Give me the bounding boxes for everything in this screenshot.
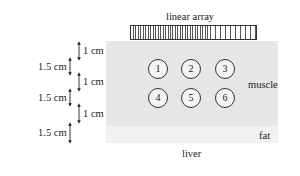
dimension-label-5: 1 cm [83, 109, 104, 120]
dimension-label-6: 1.5 cm [38, 128, 67, 139]
dimension-label-1: 1 cm [83, 46, 104, 57]
dimension-label-4: 1.5 cm [38, 93, 67, 104]
dimension-arrows [0, 0, 300, 176]
dimension-label-2: 1.5 cm [38, 62, 67, 73]
dimension-label-3: 1 cm [83, 77, 104, 88]
